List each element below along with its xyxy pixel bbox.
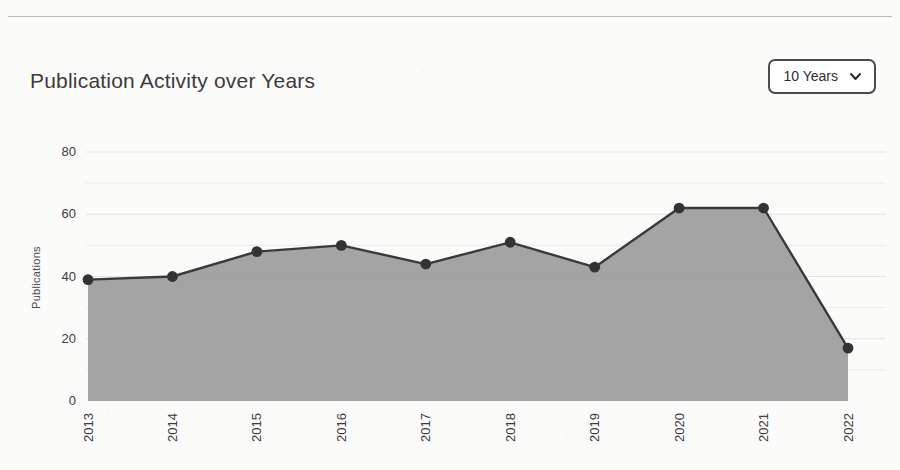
x-tick-label: 2014: [165, 413, 180, 442]
y-tick-label: 60: [62, 206, 76, 221]
page-title: Publication Activity over Years: [30, 69, 315, 93]
y-tick-label: 40: [62, 269, 76, 284]
x-tick-label: 2022: [841, 413, 856, 442]
data-point-marker[interactable]: [167, 271, 178, 282]
data-point-marker[interactable]: [420, 259, 431, 270]
x-tick-label: 2019: [587, 413, 602, 442]
chart-plot-area: Publications 020406080 20132014201520162…: [0, 95, 900, 470]
y-tick-label: 0: [69, 393, 76, 408]
y-tick-label: 80: [62, 144, 76, 159]
data-point-marker[interactable]: [505, 237, 516, 248]
publication-activity-card: Publication Activity over Years 10 Years…: [0, 17, 900, 470]
x-tick-label: 2021: [756, 413, 771, 442]
x-tick-label: 2016: [334, 413, 349, 442]
data-point-marker[interactable]: [758, 203, 769, 214]
x-tick-label: 2015: [249, 413, 264, 442]
x-axis-ticks: 2013201420152016201720182019202020212022: [81, 413, 856, 442]
data-point-marker[interactable]: [251, 246, 262, 257]
area-fill-path: [88, 208, 848, 401]
time-range-value: 10 Years: [784, 68, 839, 84]
x-tick-label: 2017: [418, 413, 433, 442]
data-point-marker[interactable]: [589, 262, 600, 273]
x-tick-label: 2013: [81, 413, 96, 442]
card-header: Publication Activity over Years 10 Years: [0, 17, 900, 95]
publications-area-chart: 020406080 201320142015201620172018201920…: [0, 95, 900, 470]
x-tick-label: 2020: [672, 413, 687, 442]
chevron-down-icon: [850, 69, 861, 80]
y-tick-label: 20: [62, 331, 76, 346]
y-axis-ticks: 020406080: [62, 144, 76, 408]
x-tick-label: 2018: [503, 413, 518, 442]
data-point-marker[interactable]: [674, 203, 685, 214]
data-point-marker[interactable]: [83, 274, 94, 285]
time-range-select[interactable]: 10 Years: [768, 59, 877, 94]
data-point-marker[interactable]: [843, 343, 854, 354]
data-point-marker[interactable]: [336, 240, 347, 251]
